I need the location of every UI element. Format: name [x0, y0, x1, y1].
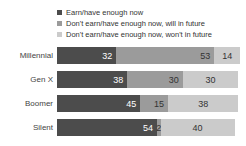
- bar-rows: Millennial325314Gen X383030Boomer451538S…: [0, 47, 246, 136]
- bar-track: 325314: [57, 47, 240, 64]
- bar-segment: 54: [57, 119, 157, 136]
- bar-value: 53: [200, 51, 214, 61]
- bar-value: 32: [102, 51, 116, 61]
- bar-row: Boomer451538: [0, 95, 246, 112]
- legend-swatch-icon: [57, 32, 62, 37]
- bar-value: 45: [126, 99, 140, 109]
- bar-row: Gen X383030: [0, 71, 246, 88]
- legend: Earn/have enough nowDon't earn/have enou…: [57, 8, 212, 39]
- bar-segment: 30: [127, 71, 183, 88]
- bar-row: Millennial325314: [0, 47, 246, 64]
- category-label: Millennial: [0, 51, 57, 60]
- bar-segment: 14: [214, 47, 240, 64]
- bar-segment: 45: [57, 95, 140, 112]
- bar-track: 451538: [57, 95, 238, 112]
- bar-segment: 40: [161, 119, 235, 136]
- category-label: Silent: [0, 123, 57, 132]
- bar-value: 30: [206, 75, 216, 85]
- bar-track: 54240: [57, 119, 235, 136]
- bar-value: 38: [113, 75, 127, 85]
- legend-item: Don't earn/have enough now, won't in fut…: [57, 30, 212, 39]
- stacked-bar-chart: Earn/have enough nowDon't earn/have enou…: [0, 0, 246, 146]
- bar-segment: 38: [168, 95, 238, 112]
- legend-item: Don't earn/have enough now, will in futu…: [57, 19, 212, 28]
- bar-value: 40: [193, 123, 203, 133]
- legend-swatch-icon: [57, 21, 62, 26]
- bar-value: 14: [222, 51, 232, 61]
- legend-item: Earn/have enough now: [57, 8, 212, 17]
- legend-label: Don't earn/have enough now, will in futu…: [66, 19, 205, 28]
- bar-segment: 15: [140, 95, 168, 112]
- bar-value: 38: [198, 99, 208, 109]
- bar-row: Silent54240: [0, 119, 246, 136]
- bar-segment: 30: [183, 71, 239, 88]
- legend-swatch-icon: [57, 10, 62, 15]
- legend-label: Earn/have enough now: [66, 8, 143, 17]
- legend-label: Don't earn/have enough now, won't in fut…: [66, 30, 212, 39]
- bar-value: 15: [154, 99, 168, 109]
- bar-value: 30: [169, 75, 183, 85]
- bar-value: 54: [143, 123, 157, 133]
- bar-track: 383030: [57, 71, 238, 88]
- bar-segment: 53: [116, 47, 214, 64]
- bar-segment: 38: [57, 71, 127, 88]
- bar-segment: 32: [57, 47, 116, 64]
- category-label: Gen X: [0, 75, 57, 84]
- category-label: Boomer: [0, 99, 57, 108]
